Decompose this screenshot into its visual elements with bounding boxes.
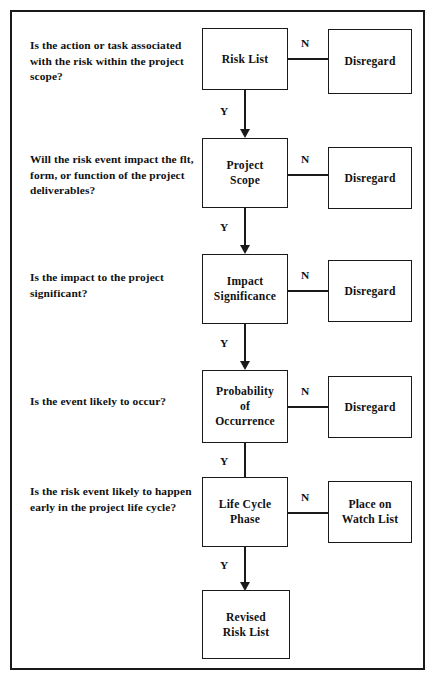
node-disregard-3-label: Disregard — [344, 284, 395, 299]
edge-label-yes-5: Y — [220, 560, 228, 571]
node-disregard-1-label: Disregard — [344, 54, 395, 69]
node-revised-risk-list-label-line2: Risk List — [223, 625, 270, 640]
node-probability-label-line3: Occurrence — [215, 414, 275, 429]
node-project-scope-label-line1: Project — [226, 158, 263, 173]
question-lifecycle: Is the risk event likely to happen early… — [30, 484, 205, 515]
node-revised-risk-list[interactable]: Revised Risk List — [202, 590, 290, 659]
node-life-cycle-phase[interactable]: Life Cycle Phase — [202, 477, 288, 547]
edge-label-yes-4: Y — [220, 456, 228, 467]
node-revised-risk-list-label-line1: Revised — [226, 610, 266, 625]
question-significance: Is the impact to the project significant… — [30, 270, 205, 301]
node-impact-significance-label-line2: Significance — [214, 289, 276, 304]
node-impact-significance[interactable]: Impact Significance — [202, 254, 288, 324]
edge-lifecycle-to-watch-list — [288, 512, 332, 514]
diagram-frame: Is the action or task associated with th… — [10, 10, 425, 670]
node-risk-list-label: Risk List — [222, 52, 269, 67]
edge-project-scope-to-impact — [244, 208, 246, 250]
node-disregard-4-label: Disregard — [344, 400, 395, 415]
edge-label-no-2: N — [301, 154, 309, 165]
edge-label-no-3: N — [301, 270, 309, 281]
edge-label-no-5: N — [301, 492, 309, 503]
question-probability: Is the event likely to occur? — [30, 394, 205, 410]
node-disregard-1[interactable]: Disregard — [328, 29, 412, 94]
question-scope: Is the action or task associated with th… — [30, 38, 205, 85]
edge-label-no-1: N — [301, 38, 309, 49]
edge-risk-list-to-disregard — [288, 58, 332, 60]
edge-label-yes-3: Y — [220, 338, 228, 349]
node-disregard-2-label: Disregard — [344, 171, 395, 186]
node-probability-label-line1: Probability — [216, 384, 274, 399]
edge-risk-list-to-project-scope — [244, 90, 246, 134]
node-watch-list-label-line1: Place on — [348, 497, 391, 512]
edge-project-scope-to-disregard — [288, 174, 332, 176]
arrow-down-icon-1 — [240, 129, 250, 138]
edge-label-yes-2: Y — [220, 222, 228, 233]
node-impact-significance-label-line1: Impact — [227, 274, 264, 289]
node-project-scope[interactable]: Project Scope — [202, 138, 288, 208]
node-disregard-3[interactable]: Disregard — [328, 260, 412, 322]
node-probability[interactable]: Probability of Occurrence — [202, 370, 288, 443]
node-disregard-4[interactable]: Disregard — [328, 376, 412, 438]
edge-probability-to-disregard — [288, 406, 332, 408]
node-life-cycle-phase-label-line1: Life Cycle — [219, 497, 272, 512]
arrow-down-icon-3 — [240, 361, 250, 370]
edge-impact-to-probability — [244, 324, 246, 366]
node-risk-list[interactable]: Risk List — [202, 28, 288, 90]
flowchart-page: Is the action or task associated with th… — [0, 0, 438, 688]
node-life-cycle-phase-label-line2: Phase — [230, 512, 260, 527]
node-watch-list[interactable]: Place on Watch List — [328, 481, 412, 543]
node-watch-list-label-line2: Watch List — [342, 512, 398, 527]
question-impact: Will the risk event impact the flt, form… — [30, 152, 205, 199]
node-project-scope-label-line2: Scope — [230, 173, 260, 188]
edge-label-no-4: N — [301, 386, 309, 397]
edge-label-yes-1: Y — [220, 106, 228, 117]
arrow-down-icon-2 — [240, 245, 250, 254]
node-disregard-2[interactable]: Disregard — [328, 147, 412, 209]
node-probability-label-line2: of — [240, 399, 250, 414]
edge-impact-to-disregard — [288, 290, 332, 292]
